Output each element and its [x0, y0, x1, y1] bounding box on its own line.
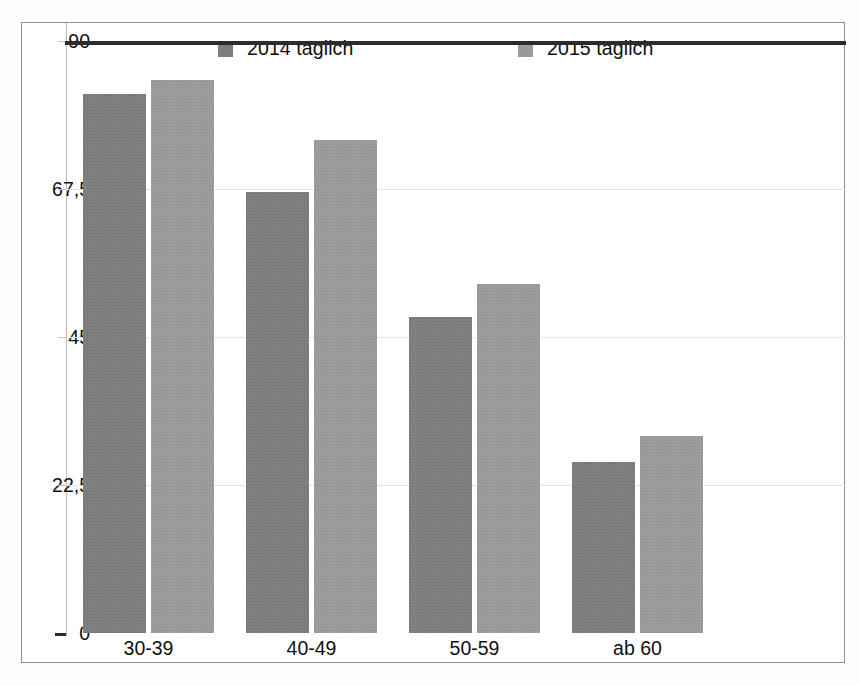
- x-tick-label-ab-60: ab 60: [613, 637, 662, 660]
- bar-40-49-2014: [246, 192, 309, 633]
- bars-layer: [66, 41, 846, 633]
- plot-area: [66, 41, 846, 633]
- gridline-0: [66, 633, 846, 634]
- bar-30-39-2014: [83, 94, 146, 633]
- plot-wrapper: 90 67,5 45 22,5 0 30-3940-4950-59ab 60: [22, 23, 846, 664]
- chart-screenshot: 2014 täglich 2015 täglich 90 67,5 45 22,…: [0, 0, 859, 685]
- tick-mark-zero: [55, 633, 66, 636]
- x-tick-label-30-39: 30-39: [124, 637, 174, 660]
- x-axis-tick-labels: 30-3940-4950-59ab 60: [66, 637, 846, 667]
- bar-50-59-2014: [409, 317, 472, 633]
- tick-mark: [58, 485, 66, 486]
- x-axis-baseline: [65, 41, 846, 45]
- x-tick-label-50-59: 50-59: [450, 637, 500, 660]
- bar-50-59-2015: [477, 284, 540, 633]
- x-tick-label-40-49: 40-49: [287, 637, 337, 660]
- tick-mark: [58, 337, 66, 338]
- tick-mark: [58, 189, 66, 190]
- bar-40-49-2015: [314, 140, 377, 633]
- bar-ab-60-2015: [640, 436, 703, 633]
- figure-frame: 2014 täglich 2015 täglich 90 67,5 45 22,…: [21, 22, 845, 663]
- bar-30-39-2015: [151, 80, 214, 633]
- bar-ab-60-2014: [572, 462, 635, 633]
